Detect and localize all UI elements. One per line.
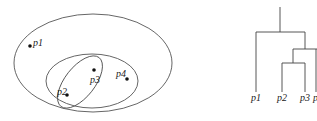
point-p1 (28, 44, 32, 48)
leaf-label-p4: p (312, 92, 317, 103)
dendrogram (256, 7, 317, 92)
nested-cluster-diagram (14, 14, 172, 116)
points (28, 44, 129, 97)
label-p4: p4 (115, 68, 126, 79)
label-p1: p1 (32, 37, 43, 48)
outer-cluster (14, 14, 172, 112)
clustering-diagram: p1 p2 p3 p4 p1 p2 p3 p (0, 0, 317, 121)
label-p3: p3 (89, 74, 100, 85)
leaf-label-p1: p1 (250, 92, 261, 103)
leaf-label-p3: p3 (299, 92, 310, 103)
label-p2: p2 (56, 86, 67, 97)
point-p3 (92, 68, 96, 72)
inner-cluster (49, 48, 111, 115)
leaf-label-p2: p2 (276, 92, 287, 103)
